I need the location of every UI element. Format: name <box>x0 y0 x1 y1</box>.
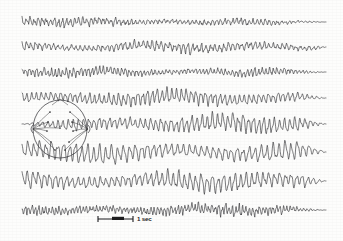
electrode-f3 <box>47 121 49 123</box>
electrode-c3 <box>46 130 48 132</box>
right-ear-reference <box>88 125 90 133</box>
eeg-trace-channel-1 <box>22 16 326 28</box>
eeg-recording-figure: 1 sec <box>0 0 343 241</box>
electrode-lead-fp1 <box>33 112 50 129</box>
eeg-trace-channel-6 <box>22 140 326 164</box>
scale-bar-time-label: 1 sec <box>137 215 152 222</box>
eeg-trace-channel-8 <box>22 202 326 217</box>
electrode-lead-o1 <box>33 129 55 150</box>
electrode-f4 <box>71 121 73 123</box>
eeg-trace-channel-2 <box>22 39 326 55</box>
electrode-p4 <box>68 141 70 143</box>
eeg-canvas: 1 sec <box>0 0 343 241</box>
scale-bar: 1 sec <box>98 215 152 222</box>
electrode-fp2 <box>69 111 71 113</box>
eeg-trace-group <box>22 16 326 217</box>
electrode-cz <box>59 127 61 129</box>
eeg-trace-channel-4 <box>22 86 326 107</box>
head-outline <box>33 100 87 158</box>
eeg-trace-channel-5 <box>22 111 326 134</box>
electrode-fp1 <box>49 111 51 113</box>
eeg-trace-channel-7 <box>22 168 326 194</box>
electrode-c4 <box>72 130 74 132</box>
electrode-o2 <box>64 149 66 151</box>
electrode-o1 <box>54 149 56 151</box>
scale-bar-block <box>112 217 124 220</box>
eeg-trace-channel-3 <box>22 66 326 79</box>
electrode-p3 <box>50 141 52 143</box>
